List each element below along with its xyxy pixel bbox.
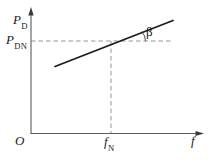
droop-characteristic-figure: PD PDN O fN f β (0, 0, 212, 160)
x-axis-label: f (191, 134, 195, 147)
x-axis-arrowhead (196, 131, 205, 136)
y-value-label-base: P (6, 32, 14, 47)
angle-label: β (146, 25, 153, 38)
y-axis-label-subscript: D (21, 21, 27, 31)
x-value-label-subscript: N (108, 143, 114, 153)
y-axis-label-base: P (13, 12, 21, 27)
y-axis-arrowhead (28, 7, 33, 16)
y-value-label-subscript: DN (14, 41, 27, 51)
x-value-label: fN (104, 135, 114, 151)
y-value-label: PDN (6, 33, 27, 49)
droop-characteristic-line (55, 21, 173, 67)
y-axis-label: PD (13, 13, 27, 29)
origin-label: O (15, 134, 24, 147)
